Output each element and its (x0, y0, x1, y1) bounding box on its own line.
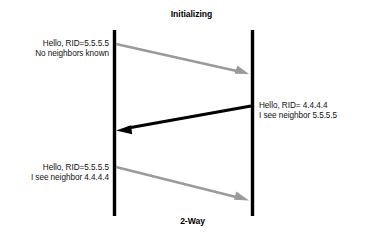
message-label-hello-1-line-2: No neighbors known (6, 49, 109, 59)
message-label-hello-3-line-2: I see neighbor 4.4.4.4 (6, 173, 109, 183)
message-label-hello-1-line-1: Hello, RID=5.5.5.5 (6, 39, 109, 49)
arrowhead-right-1 (235, 66, 250, 75)
ospf-neighbor-sequence-diagram: Initializing Hello, RID=5.5.5.5 No neigh… (0, 0, 371, 239)
arrowhead-right-3 (234, 191, 249, 200)
message-label-hello-2-line-1: Hello, RID= 4.4.4.4 (259, 101, 369, 111)
message-arrow-hello-1 (116, 44, 249, 74)
message-label-hello-3: Hello, RID=5.5.5.5 I see neighbor 4.4.4.… (6, 163, 109, 184)
message-arrow-hello-2 (116, 106, 251, 134)
message-arrow-hello-3 (116, 167, 249, 201)
message-label-hello-2-line-2: I see neighbor 5.5.5.5 (259, 111, 369, 121)
state-label-2way: 2-Way (0, 216, 371, 226)
message-label-hello-3-line-1: Hello, RID=5.5.5.5 (6, 163, 109, 173)
arrowhead-left-2 (116, 125, 132, 134)
message-label-hello-1: Hello, RID=5.5.5.5 No neighbors known (6, 39, 109, 60)
state-label-initializing: Initializing (0, 9, 371, 19)
message-label-hello-2: Hello, RID= 4.4.4.4 I see neighbor 5.5.5… (259, 101, 369, 122)
